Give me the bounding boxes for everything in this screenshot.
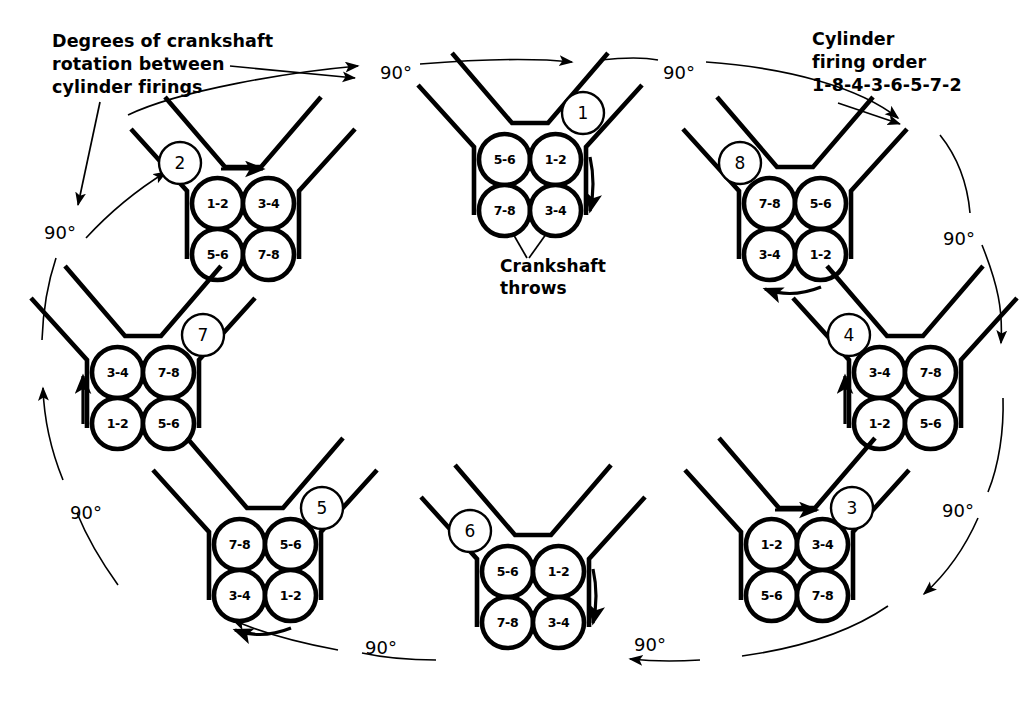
arc-4-to-3-b — [924, 518, 978, 594]
throw-label-br: 3-4 — [545, 203, 567, 218]
throw-label-bl: 3-4 — [759, 247, 781, 262]
arc-5-to-7-b — [43, 388, 63, 480]
throw-label-br: 5-6 — [920, 416, 942, 431]
note-degrees-of-rotation: Degrees of crankshaft rotation between c… — [52, 30, 273, 98]
step-badge-label: 6 — [465, 521, 476, 541]
throw-label-tr: 7-8 — [920, 365, 942, 380]
throw-label-bl: 7-8 — [497, 615, 519, 630]
step-badge-5[interactable]: 5 — [301, 487, 343, 529]
engine-group: 5-61-27-83-411-23-45-67-827-85-63-41-283… — [31, 53, 1017, 648]
deg-top-right: 90° — [663, 62, 695, 83]
deg-left-lower: 90° — [70, 502, 102, 523]
deg-bottom-right: 90° — [634, 634, 666, 655]
engine-bank-wall-left — [153, 470, 209, 600]
engine-position-8[interactable]: 7-85-63-41-28 — [683, 97, 907, 293]
throw-label-bl: 3-4 — [229, 588, 251, 603]
throw-label-br: 3-4 — [548, 615, 570, 630]
step-badge-8[interactable]: 8 — [719, 142, 761, 184]
deg-top-left: 90° — [380, 62, 412, 83]
arc-1-to-8-a — [600, 58, 658, 60]
engine-bank-wall-right — [961, 298, 1017, 428]
engine-rotation-arrow — [590, 157, 593, 211]
throw-label-tl: 3-4 — [107, 365, 129, 380]
deg-left-upper: 90° — [44, 222, 76, 243]
note-crankshaft-throws: Crankshaft throws — [500, 255, 606, 299]
step-badge-label: 8 — [735, 153, 746, 173]
engine-bank-wall-right — [299, 129, 355, 259]
step-badge-label: 2 — [175, 153, 186, 173]
throw-label-tl: 5-6 — [494, 152, 516, 167]
note-cylinder-firing-order: Cylinder firing order 1-8-4-3-6-5-7-2 — [812, 28, 962, 96]
throw-label-tr: 3-4 — [812, 537, 834, 552]
throw-label-bl: 1-2 — [107, 416, 129, 431]
throw-label-tl: 7-8 — [759, 196, 781, 211]
throw-label-br: 7-8 — [812, 588, 834, 603]
engine-position-2[interactable]: 1-23-45-67-82 — [131, 97, 355, 280]
throw-label-tr: 3-4 — [258, 196, 280, 211]
arc-2-to-1-b — [420, 59, 572, 64]
throw-label-br: 5-6 — [158, 416, 180, 431]
step-badge-label: 1 — [578, 103, 589, 123]
throw-label-tr: 5-6 — [810, 196, 832, 211]
arc-4-to-3-a — [988, 398, 1003, 492]
step-badge-1[interactable]: 1 — [562, 92, 604, 134]
throw-label-bl: 7-8 — [494, 203, 516, 218]
arc-8-to-4-a — [940, 135, 970, 213]
engine-bank-wall-left — [685, 470, 741, 600]
engine-position-1[interactable]: 5-61-27-83-41 — [418, 53, 642, 236]
step-badge-6[interactable]: 6 — [449, 510, 491, 552]
throw-label-tr: 5-6 — [280, 537, 302, 552]
throw-label-tl: 1-2 — [761, 537, 783, 552]
throw-label-tr: 1-2 — [545, 152, 567, 167]
throw-label-br: 1-2 — [810, 247, 832, 262]
engine-position-7[interactable]: 3-47-81-25-67 — [31, 266, 255, 449]
engine-position-3[interactable]: 1-23-45-67-83 — [685, 438, 909, 621]
deg-right-upper: 90° — [943, 228, 975, 249]
engine-bank-wall-left — [31, 298, 87, 428]
throw-label-br: 1-2 — [280, 588, 302, 603]
throw-label-bl: 1-2 — [869, 416, 891, 431]
engine-rotation-arrow — [593, 569, 596, 623]
engine-bank-wall-right — [589, 497, 645, 627]
step-badge-label: 3 — [847, 498, 858, 518]
engine-bank-wall-right — [851, 129, 907, 259]
engine-position-5[interactable]: 7-85-63-41-25 — [153, 438, 377, 634]
throw-label-bl: 5-6 — [207, 247, 229, 262]
firing-order-diagram: 5-61-27-83-411-23-45-67-827-85-63-41-283… — [0, 0, 1034, 715]
throw-label-tl: 5-6 — [497, 564, 519, 579]
engine-position-6[interactable]: 5-61-27-83-46 — [421, 465, 645, 648]
arc-7-to-2-a — [42, 258, 56, 340]
step-badge-label: 7 — [198, 325, 209, 345]
leader-rotation-to-90deg — [78, 102, 100, 205]
arc-7-to-2-b — [86, 172, 166, 238]
throw-label-tl: 1-2 — [207, 196, 229, 211]
deg-bottom-left: 90° — [365, 637, 397, 658]
figure-canvas: 5-61-27-83-411-23-45-67-827-85-63-41-283… — [0, 0, 1034, 715]
step-badge-3[interactable]: 3 — [831, 487, 873, 529]
step-badge-4[interactable]: 4 — [828, 314, 870, 356]
engine-rotation-arrow — [765, 287, 821, 293]
throw-label-tl: 7-8 — [229, 537, 251, 552]
step-badge-label: 5 — [317, 498, 328, 518]
throw-label-bl: 5-6 — [761, 588, 783, 603]
deg-right-lower: 90° — [942, 500, 974, 521]
throw-label-tl: 3-4 — [869, 365, 891, 380]
engine-position-4[interactable]: 3-47-81-25-64 — [793, 266, 1017, 449]
step-badge-2[interactable]: 2 — [159, 142, 201, 184]
throw-label-br: 7-8 — [258, 247, 280, 262]
throw-label-tr: 1-2 — [548, 564, 570, 579]
step-badge-7[interactable]: 7 — [182, 314, 224, 356]
step-badge-label: 4 — [844, 325, 855, 345]
arc-3-to-6-b — [630, 659, 700, 661]
arc-5-to-7-a — [77, 513, 118, 585]
throw-label-tr: 7-8 — [158, 365, 180, 380]
engine-bank-wall-left — [418, 85, 474, 215]
